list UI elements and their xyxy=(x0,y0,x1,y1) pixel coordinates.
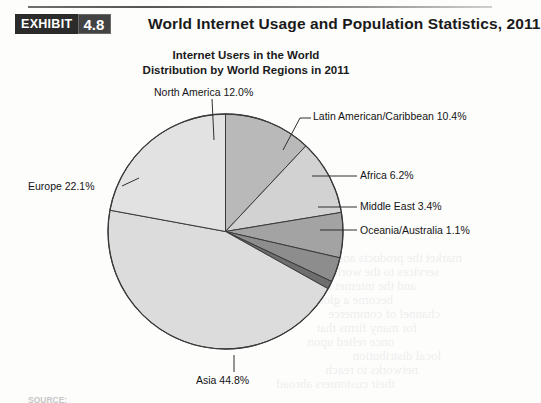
pie-label-africa: Africa 6.2% xyxy=(360,169,414,182)
pie-slice-group xyxy=(108,114,343,349)
exhibit-badge: EXHIBIT 4.8 xyxy=(15,14,111,34)
chart-title-line-2: Distribution by World Regions in 2011 xyxy=(0,63,492,78)
pie-label-asia: Asia 44.8% xyxy=(196,374,249,387)
pie-label-latin-america: Latin American/Caribbean 10.4% xyxy=(313,110,467,123)
pie-label-oceania: Oceania/Australia 1.1% xyxy=(360,224,470,237)
exhibit-title: World Internet Usage and Population Stat… xyxy=(148,14,541,34)
exhibit-badge-word: EXHIBIT xyxy=(15,14,78,34)
source-note: SOURCE: xyxy=(28,395,67,403)
pie-slice-europe xyxy=(110,114,226,232)
chart-title-line-1: Internet Users in the World xyxy=(0,48,492,63)
pie-label-europe: Europe 22.1% xyxy=(28,180,95,193)
pie-label-middle-east: Middle East 3.4% xyxy=(360,200,442,213)
pie-label-north-america: North America 12.0% xyxy=(154,86,253,99)
exhibit-badge-number: 4.8 xyxy=(78,14,111,34)
chart-title: Internet Users in the World Distribution… xyxy=(0,48,492,77)
